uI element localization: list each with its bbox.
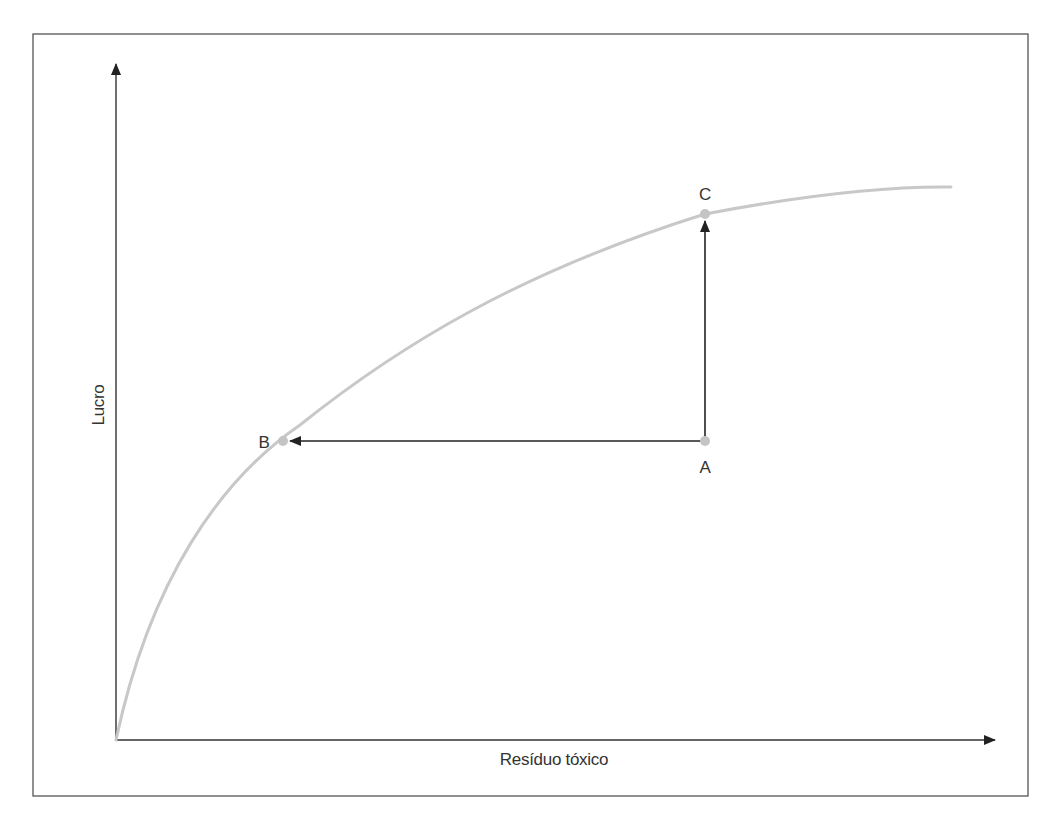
x-axis-label: Resíduo tóxico: [500, 750, 608, 769]
point-c-label: C: [699, 185, 711, 204]
frontier-curve: [116, 187, 951, 740]
y-axis-label: Lucro: [89, 384, 108, 425]
point-b-marker: [278, 436, 288, 446]
diagram-canvas: A B C Resíduo tóxico Lucro: [0, 0, 1061, 816]
point-b-label: B: [258, 433, 269, 452]
point-a-label: A: [699, 458, 711, 477]
point-a-marker: [700, 436, 710, 446]
point-c-marker: [700, 209, 710, 219]
figure-frame: [33, 34, 1028, 796]
